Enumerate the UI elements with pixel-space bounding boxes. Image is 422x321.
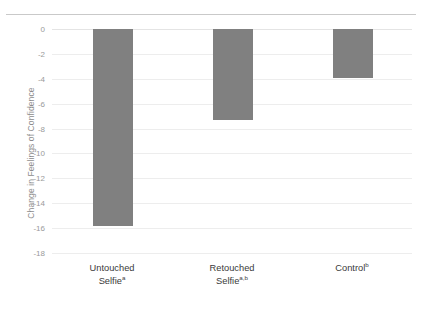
y-gridline: -16 [52,228,412,229]
bar-untouched-selfie[interactable] [93,29,133,226]
x-label-superscript: b [365,261,368,268]
y-tick-label: -6 [38,99,45,108]
x-axis-label-untouched-selfie: UntouchedSelfiea [52,262,172,288]
top-divider-rule [6,14,416,15]
x-label-superscript: a,b [239,274,248,281]
x-axis-label-control: Controlb [292,262,412,275]
x-label-superscript: a [122,274,125,281]
bar-chart-figure: Change in Feelings of Confidence 0-2-4-6… [0,0,422,321]
bar-control[interactable] [333,29,373,78]
y-gridline: -18 [52,253,412,254]
y-tick-label: -14 [33,199,45,208]
plot-area: 0-2-4-6-8-10-12-14-16-18 [52,29,412,253]
y-tick-label: 0 [41,25,45,34]
y-tick-label: -4 [38,74,45,83]
x-axis-labels: UntouchedSelfieaRetouchedSelfiea,bContro… [52,262,412,302]
y-tick-label: -8 [38,124,45,133]
y-tick-label: -10 [33,149,45,158]
y-tick-label: -12 [33,174,45,183]
bar-retouched-selfie[interactable] [213,29,253,120]
y-tick-label: -18 [33,249,45,258]
y-tick-label: -2 [38,49,45,58]
y-tick-label: -16 [33,224,45,233]
x-axis-label-retouched-selfie: RetouchedSelfiea,b [172,262,292,288]
